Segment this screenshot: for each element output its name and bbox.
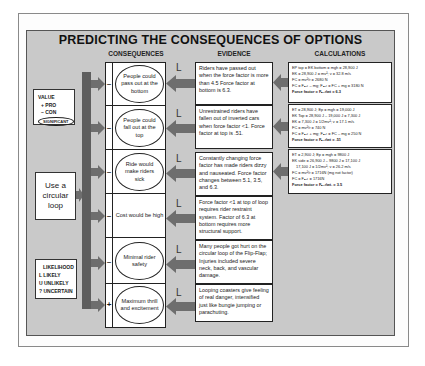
value-legend: VALUE + PRO – CON SIGNIFICANT [33,89,75,125]
likelihood-legend-unlikely: U UNLIKELY [39,279,76,287]
calculation-box: ET = 2,900 J; Ep = mgh = 9800 J EK side … [288,149,392,194]
column-header-evidence: EVIDENCE [195,50,273,57]
consequence-significant: Minimal rider safety [115,242,164,280]
value-legend-heading: VALUE [38,93,74,101]
consequence-significant: Ride would make riders sick [115,153,164,191]
arrow-right-icon [91,77,105,91]
calc-result: Force factor = Fₙₑₜ/wt = .51 [292,137,388,143]
value-sign: – [105,212,113,220]
evidence-box: Force factor <1 at top of loop requires … [195,196,273,240]
likelihood-legend-uncertain: ? UNCERTAIN [39,287,76,295]
consequence-row: – People could pass out at the bottom [105,62,166,106]
arrow-left-icon [166,75,195,92]
consequence-row: – Cost would be high [105,194,166,238]
evidence-box: Constantly changing force factor has mad… [195,152,273,196]
likelihood-legend-heading: LIKELIHOOD [39,263,76,271]
consequence-text: People could fall out at the top [120,117,159,139]
arrow-right-icon [91,121,105,135]
consequence-text: Minimal rider safety [120,254,159,269]
value-sign: – [105,80,113,88]
diagram-title: PREDICTING THE CONSEQUENCES OF OPTIONS [26,33,395,47]
likelihood-mark: L [176,287,182,298]
consequence-significant: People could pass out at the bottom [115,65,164,103]
decision-box: Use a circular loop [35,172,76,220]
consequence-plain: Cost would be high [115,197,164,235]
evidence-box: Looping coasters give feeling of real da… [195,284,273,322]
likelihood-mark: L [176,198,182,209]
likelihood-mark: L [176,108,182,119]
likelihood-legend-likely: L LIKELY [39,271,76,279]
likelihood-mark: L [176,62,182,73]
likelihood-legend: LIKELIHOOD L LIKELY U UNLIKELY ? UNCERTA… [35,259,77,299]
value-legend-pro: + PRO [38,101,74,109]
calculation-box: ET = 28,900 J; Ep = mgh = 19,000 J EK To… [288,104,392,148]
consequence-text: People could pass out at the bottom [120,73,159,95]
arrow-left-icon [166,165,195,182]
value-sign: – [105,258,113,266]
column-header-consequences: CONSEQUENCES [104,50,168,57]
arrow-left-icon [273,163,289,180]
likelihood-mark: L [176,153,182,164]
calc-result: Force factor = Fₙₑₜ/wt = 6.3 [292,89,388,95]
consequence-significant: Maximum thrill and excitement [115,286,164,324]
calculation-box: EP top = EK bottom = mgh = 28,900 J EK =… [288,62,392,103]
arrow-left-icon [166,298,195,315]
calc-result: Force factor = Fₙₑₜ/wt. = 3.5 [292,182,388,188]
consequence-row: – Minimal rider safety [105,238,166,284]
likelihood-mark: L [176,244,182,255]
arrow-right-icon [91,165,105,179]
arrow-right-icon [91,209,105,223]
evidence-box: Riders have passed out when the force fa… [195,62,273,105]
connector-bar [82,72,91,309]
evidence-box: Unrestrained riders have fallen out of i… [195,105,273,149]
value-legend-con: – CON [38,109,74,115]
consequence-text: Maximum thrill and excitement [120,298,159,313]
consequence-row: – Ride would make riders sick [105,150,166,194]
consequence-row: + Maximum thrill and excitement [105,284,166,328]
consequence-text: Ride would make riders sick [120,161,159,183]
arrow-right-icon [91,256,105,270]
decision-label: Use a circular loop [36,181,75,211]
arrow-left-icon [166,256,195,273]
value-legend-significant: SIGNIFICANT [38,117,74,126]
consequence-text: Cost would be high [116,212,164,219]
value-sign: – [105,124,113,132]
arrow-right-icon [91,298,105,312]
value-sign: + [105,301,113,309]
value-sign: – [105,168,113,176]
arrow-left-icon [166,210,195,227]
consequence-significant: People could fall out at the top [115,109,164,147]
consequence-row: – People could fall out at the top [105,106,166,150]
arrow-left-icon [166,120,195,137]
arrow-left-icon [273,74,289,91]
column-header-calculations: CALCULATIONS [288,50,392,57]
evidence-box: Many people got hurt on the circular loo… [195,240,273,284]
arrow-left-icon [273,118,289,135]
